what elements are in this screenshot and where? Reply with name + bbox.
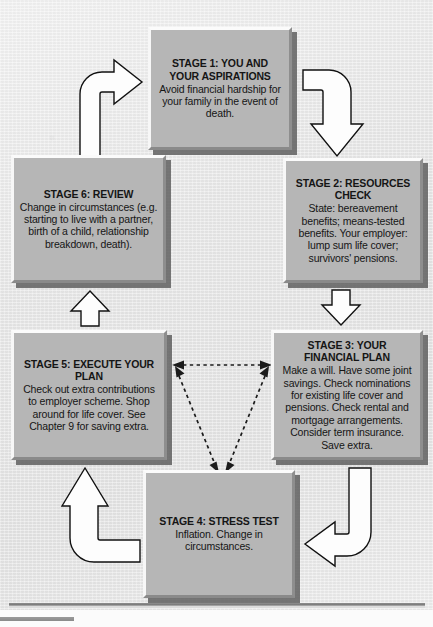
stage-3-title: STAGE 3: YOUR FINANCIAL PLAN	[279, 339, 415, 364]
arrow-stage4-to-stage5	[64, 466, 142, 566]
arrow-stage5-to-stage6	[69, 290, 111, 328]
stage-6-body: Change in circumstances (e.g. starting t…	[19, 201, 158, 251]
stage-5-body: Check out extra contributions to employe…	[19, 383, 159, 433]
dashed-feedback-triangle	[170, 356, 274, 476]
footer-rule-highlight	[9, 606, 425, 608]
dashed-line-right	[230, 376, 265, 462]
arrow-stage1-to-stage2	[299, 68, 365, 158]
dashed-arrowhead-left	[172, 361, 184, 370]
stage-2-box: STAGE 2: RESOURCES CHECK State: bereavem…	[283, 158, 423, 283]
stage-2-title: STAGE 2: RESOURCES CHECK	[291, 177, 415, 202]
stage-3-body: Make a will. Have some joint savings. Ch…	[279, 364, 415, 451]
stage-3-box: STAGE 3: YOUR FINANCIAL PLAN Make a will…	[271, 330, 423, 460]
stage-4-box: STAGE 4: STRESS TEST Inflation. Change i…	[143, 470, 295, 598]
stage-2-body: State: bereavement benefits; means-teste…	[291, 202, 415, 264]
stage-1-body: Avoid financial hardship for your family…	[156, 83, 284, 120]
stage-6-box: STAGE 6: REVIEW Change in circumstances …	[11, 155, 166, 283]
stage-6-title: STAGE 6: REVIEW	[19, 188, 158, 200]
footer-tab-mark	[0, 617, 74, 621]
stage-5-title: STAGE 5: EXECUTE YOUR PLAN	[19, 358, 159, 383]
arrow-stage2-to-stage3	[320, 289, 362, 327]
arrow-stage3-to-stage4	[303, 466, 373, 566]
stage-1-box: STAGE 1: YOU AND YOUR ASPIRATIONS Avoid …	[148, 27, 292, 150]
dashed-line-left	[179, 376, 214, 462]
stage-4-body: Inflation. Change in circumstances.	[151, 528, 287, 553]
stage-4-title: STAGE 4: STRESS TEST	[151, 515, 287, 527]
diagram-page: STAGE 1: YOU AND YOUR ASPIRATIONS Avoid …	[0, 0, 433, 627]
arrow-stage6-to-stage1	[74, 60, 146, 156]
stage-5-box: STAGE 5: EXECUTE YOUR PLAN Check out ext…	[11, 330, 167, 460]
stage-1-title: STAGE 1: YOU AND YOUR ASPIRATIONS	[156, 57, 284, 82]
